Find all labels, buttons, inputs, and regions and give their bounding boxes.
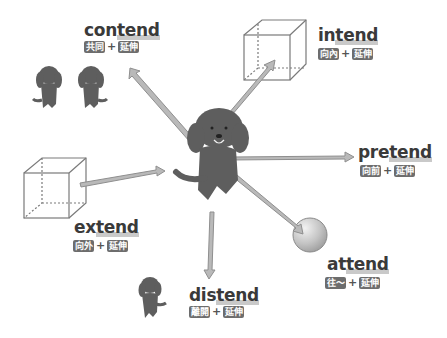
root-meaning-badge: 延伸 xyxy=(107,240,128,252)
formula-intend: 向內 + 延伸 xyxy=(318,47,373,60)
plus-sign: + xyxy=(107,40,116,53)
cube-icon-extend xyxy=(24,158,86,218)
arrow-pretend xyxy=(230,152,354,162)
arrow-extend xyxy=(80,166,165,187)
root: tend xyxy=(389,142,432,162)
prefix-meaning-badge: 離開 xyxy=(189,306,210,318)
root: tend xyxy=(117,20,160,40)
prefix: dis xyxy=(189,285,216,305)
formula-pretend: 向前 + 延伸 xyxy=(360,164,415,177)
formula-extend: 向外 + 延伸 xyxy=(73,239,128,252)
prefix-meaning-badge: 向外 xyxy=(73,240,94,252)
root-meaning-badge: 延伸 xyxy=(118,41,139,53)
root-meaning-badge: 延伸 xyxy=(352,48,373,60)
prefix-meaning-badge: 向內 xyxy=(318,48,339,60)
dog-icon-distend xyxy=(139,277,167,318)
ball-icon-attend xyxy=(293,218,327,252)
root: tend xyxy=(216,285,259,305)
word-distend: distend xyxy=(189,286,259,304)
word-contend: contend xyxy=(84,21,160,39)
prefix: in xyxy=(318,25,335,45)
plus-sign: + xyxy=(341,47,350,60)
word-extend: extend xyxy=(74,218,139,236)
arrow-contend xyxy=(129,68,194,142)
word-intend: intend xyxy=(318,26,378,44)
cube-icon-intend xyxy=(244,20,306,80)
prefix: con xyxy=(84,20,117,40)
prefix-meaning-badge: 往～ xyxy=(325,277,346,289)
formula-contend: 共同 + 延伸 xyxy=(84,40,139,53)
arrow-distend xyxy=(204,212,215,279)
root: tend xyxy=(346,254,389,274)
plus-sign: + xyxy=(96,239,105,252)
formula-distend: 離開 + 延伸 xyxy=(189,305,244,318)
plus-sign: + xyxy=(212,305,221,318)
dog-icon-contend-left xyxy=(33,66,62,108)
dog-icon-center xyxy=(176,108,249,200)
root: tend xyxy=(335,25,378,45)
prefix-meaning-badge: 向前 xyxy=(360,165,381,177)
prefix: ex xyxy=(74,217,96,237)
dog-icon-contend-right xyxy=(78,66,107,108)
prefix: at xyxy=(327,254,346,274)
root: tend xyxy=(96,217,139,237)
formula-attend: 往～ + 延伸 xyxy=(325,276,380,289)
prefix: pre xyxy=(358,142,389,162)
plus-sign: + xyxy=(383,164,392,177)
root-meaning-badge: 延伸 xyxy=(394,165,415,177)
plus-sign: + xyxy=(348,276,357,289)
word-attend: attend xyxy=(327,255,389,273)
root-meaning-badge: 延伸 xyxy=(359,277,380,289)
word-pretend: pretend xyxy=(358,143,432,161)
prefix-meaning-badge: 共同 xyxy=(84,41,105,53)
root-meaning-badge: 延伸 xyxy=(223,306,244,318)
